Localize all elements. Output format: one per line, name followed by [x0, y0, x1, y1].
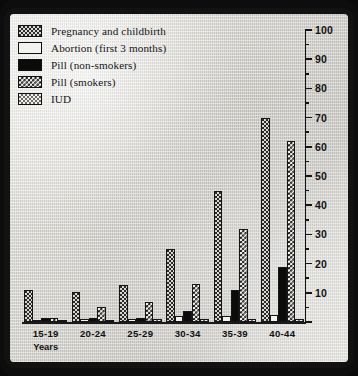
y-axis-tick-minor [305, 73, 309, 75]
x-axis-category-label: 15-19 [22, 328, 69, 339]
bar [166, 249, 175, 322]
y-axis-tick-label: 50 [315, 170, 327, 182]
chart-paper-surface: Pregnancy and childbirthAbortion (first … [10, 14, 348, 362]
y-axis-tick-major [305, 88, 312, 90]
y-axis-tick-minor [305, 277, 309, 279]
bar [270, 315, 279, 322]
y-axis-tick-minor [305, 248, 309, 250]
x-axis-category-label: 40-44 [259, 328, 306, 339]
bar [231, 290, 240, 322]
bar [239, 229, 248, 322]
swatch-iud-icon [18, 93, 42, 105]
swatch-abortion-icon [18, 42, 42, 54]
chart-figure: Pregnancy and childbirthAbortion (first … [0, 0, 358, 376]
y-axis-tick-label: 10 [315, 287, 327, 299]
legend-item: Pill (smokers) [18, 73, 166, 90]
y-axis-tick-minor [305, 219, 309, 221]
legend-item-label: Pill (non-smokers) [51, 59, 136, 71]
legend-item-label: Pregnancy and childbirth [51, 25, 166, 37]
swatch-pill-nonsmokers-icon [18, 59, 42, 71]
y-axis-tick-major [305, 204, 312, 206]
x-axis-category-label: 30-34 [164, 328, 211, 339]
bar [192, 284, 201, 322]
x-axis-category-label: 20-24 [69, 328, 116, 339]
y-axis-tick-label: 30 [315, 228, 327, 240]
y-axis-tick-label: 60 [315, 141, 327, 153]
bar [97, 307, 106, 322]
legend-item: IUD [18, 90, 166, 107]
bar [214, 191, 223, 322]
x-axis-label-cell: 20-24 [69, 328, 116, 358]
chart-legend: Pregnancy and childbirthAbortion (first … [18, 22, 166, 107]
y-axis-tick-major [305, 234, 312, 236]
y-axis-tick-minor [305, 102, 309, 104]
y-axis-tick-label: 70 [315, 112, 327, 124]
y-axis: 102030405060708090100 [305, 30, 306, 322]
y-axis-tick-major [305, 146, 312, 148]
x-axis-category-label: 35-39 [211, 328, 258, 339]
legend-item-label: Abortion (first 3 months) [51, 42, 166, 54]
bar-group [211, 30, 258, 322]
x-axis-category-label: 25-29 [117, 328, 164, 339]
x-axis-labels: 15-19Years20-2425-2930-3435-3940-44 [22, 328, 306, 358]
y-axis-tick-minor [305, 44, 309, 46]
bar [119, 285, 128, 322]
x-axis-label-cell: 15-19Years [22, 328, 69, 358]
legend-item-label: Pill (smokers) [51, 76, 115, 88]
x-axis-caption: Years [22, 341, 69, 352]
y-axis-tick-major [305, 117, 312, 119]
bar [278, 267, 287, 322]
bar-group [259, 30, 306, 322]
swatch-pregnancy-icon [18, 25, 42, 37]
y-axis-tick-label: 80 [315, 82, 327, 94]
y-axis-tick-major [305, 58, 312, 60]
legend-item: Abortion (first 3 months) [18, 39, 166, 56]
y-axis-tick-minor [305, 307, 309, 309]
legend-item-label: IUD [51, 93, 71, 105]
x-axis-label-cell: 35-39 [211, 328, 258, 358]
swatch-pill-smokers-icon [18, 76, 42, 88]
bar [72, 292, 81, 322]
legend-item: Pill (non-smokers) [18, 56, 166, 73]
y-axis-tick-minor [305, 161, 309, 163]
x-axis-baseline [22, 322, 306, 324]
y-axis-tick-major [305, 175, 312, 177]
legend-item: Pregnancy and childbirth [18, 22, 166, 39]
bar [261, 118, 270, 322]
bar [183, 311, 192, 322]
bar [145, 302, 154, 322]
x-axis-label-cell: 40-44 [259, 328, 306, 358]
y-axis-tick-label: 20 [315, 258, 327, 270]
bar-group [164, 30, 211, 322]
y-axis-tick-label: 100 [315, 24, 333, 36]
y-axis-tick-major [305, 29, 312, 31]
x-axis-label-cell: 30-34 [164, 328, 211, 358]
bar [24, 290, 33, 322]
y-axis-tick-minor [305, 190, 309, 192]
y-axis-tick-major [305, 292, 312, 294]
y-axis-tick-minor [305, 131, 309, 133]
y-axis-tick-major [305, 321, 312, 323]
x-axis-label-cell: 25-29 [117, 328, 164, 358]
y-axis-tick-major [305, 263, 312, 265]
plot-area: Pregnancy and childbirthAbortion (first … [10, 14, 348, 362]
y-axis-tick-label: 90 [315, 53, 327, 65]
y-axis-tick-label: 40 [315, 199, 327, 211]
bar [287, 141, 296, 322]
